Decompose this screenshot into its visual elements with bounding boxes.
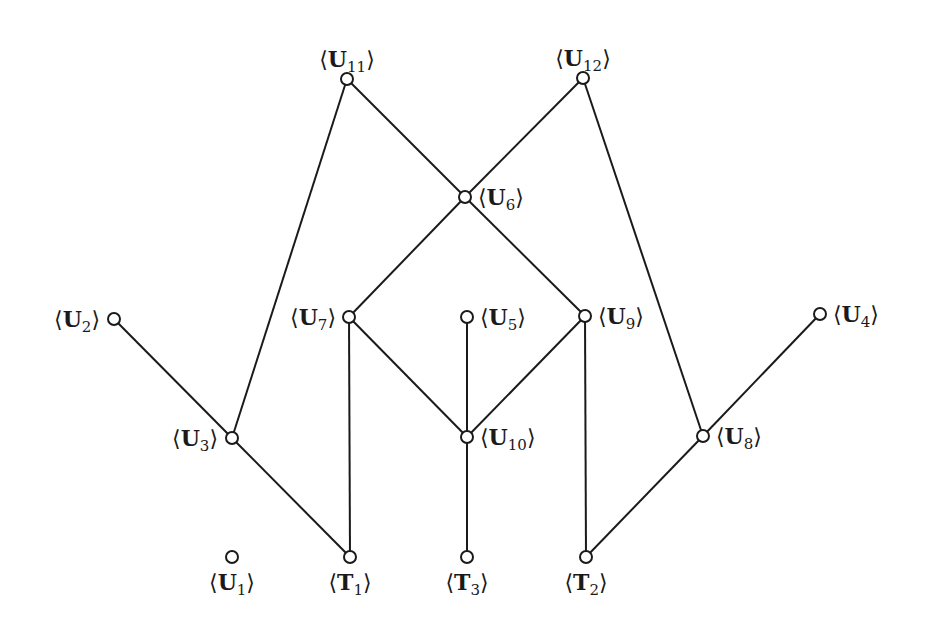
edge-U9-T2 [585, 316, 586, 557]
node-U7 [343, 311, 355, 323]
edge-U9-U10 [467, 316, 585, 437]
node-U1 [226, 551, 238, 563]
label-U12: ⟨U12⟩ [555, 45, 610, 75]
edge-U4-U8 [703, 314, 820, 436]
edge-U11-U6 [347, 79, 465, 197]
edge-U2-U3 [114, 319, 232, 438]
label-U7: ⟨U7⟩ [290, 304, 336, 334]
edge-U7-U10 [349, 317, 467, 437]
label-U9: ⟨U9⟩ [598, 303, 644, 333]
label-U10: ⟨U10⟩ [480, 424, 535, 454]
node-T3 [461, 551, 473, 563]
node-U9 [579, 310, 591, 322]
node-U5 [461, 311, 473, 323]
hasse-diagram: ⟨U11⟩⟨U12⟩⟨U6⟩⟨U2⟩⟨U7⟩⟨U5⟩⟨U9⟩⟨U4⟩⟨U3⟩⟨U… [0, 0, 936, 627]
label-U4: ⟨U4⟩ [833, 301, 879, 331]
label-U3: ⟨U3⟩ [172, 425, 218, 455]
node-U2 [108, 313, 120, 325]
label-U1: ⟨U1⟩ [209, 569, 255, 599]
edge-U12-U6 [465, 78, 583, 197]
edge-U6-U7 [349, 197, 465, 317]
label-T1: ⟨T1⟩ [328, 569, 371, 599]
edge-U7-T1 [349, 317, 350, 557]
node-U3 [226, 432, 238, 444]
label-U2: ⟨U2⟩ [54, 306, 100, 336]
label-U11: ⟨U11⟩ [319, 46, 374, 76]
label-U6: ⟨U6⟩ [478, 184, 524, 214]
label-T2: ⟨T2⟩ [564, 569, 607, 599]
label-U8: ⟨U8⟩ [716, 423, 762, 453]
label-U5: ⟨U5⟩ [480, 304, 526, 334]
edge-U3-T1 [232, 438, 350, 557]
node-T1 [344, 551, 356, 563]
node-U8 [697, 430, 709, 442]
edge-U12-U8 [583, 78, 703, 436]
edge-U8-T2 [586, 436, 703, 557]
label-T3: ⟨T3⟩ [445, 569, 488, 599]
edge-U11-U3 [232, 79, 347, 438]
edge-U6-U9 [465, 197, 585, 316]
node-U6 [459, 191, 471, 203]
node-T2 [580, 551, 592, 563]
node-U10 [461, 431, 473, 443]
node-U4 [814, 308, 826, 320]
